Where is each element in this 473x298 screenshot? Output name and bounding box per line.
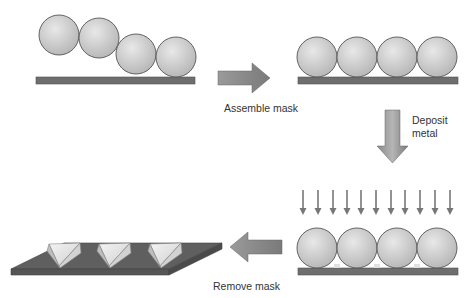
arrow-left-icon (230, 232, 282, 262)
nanosphere-lithography-diagram: Assemble mask Deposit metal Remove mask (0, 0, 473, 298)
sphere (79, 18, 119, 58)
sphere (337, 228, 377, 268)
sphere (39, 15, 79, 55)
sphere (417, 37, 457, 77)
remove-mask-label: Remove mask (213, 280, 280, 293)
sphere (377, 37, 417, 77)
deposition-arrows (300, 190, 454, 215)
sphere (297, 37, 337, 77)
sphere (337, 37, 377, 77)
deposited-metal (374, 264, 380, 268)
sphere (156, 37, 196, 77)
assemble-mask-label: Assemble mask (224, 102, 298, 115)
deposit-metal-label-line1: Deposit (412, 114, 448, 127)
sphere (377, 228, 417, 268)
arrow-down-icon (377, 110, 408, 163)
step3-metal-deposition (297, 190, 458, 275)
sphere (116, 34, 156, 74)
sphere (297, 228, 337, 268)
diagram-graphics (0, 0, 473, 298)
arrow-right-icon (218, 63, 270, 93)
deposited-metal (334, 264, 340, 268)
sphere (417, 228, 457, 268)
step1-disordered-spheres (36, 15, 196, 84)
step4-triangle-array (11, 243, 222, 275)
substrate (36, 77, 195, 84)
deposited-metal (414, 264, 420, 268)
substrate (298, 268, 458, 275)
substrate-front (11, 269, 169, 275)
substrate (298, 77, 458, 84)
step2-closepacked-mask (297, 37, 458, 84)
deposit-metal-label-line2: metal (412, 127, 438, 140)
